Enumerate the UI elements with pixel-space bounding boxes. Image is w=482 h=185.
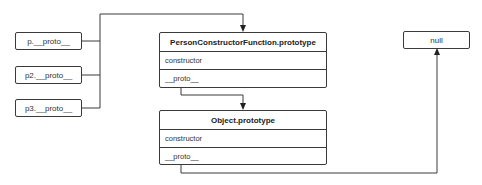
arrowhead-icon [434,48,440,55]
instance-node-p[interactable]: p.__proto__ [15,32,82,50]
node-label: null [430,36,442,45]
node-label: p2.__proto__ [25,71,72,80]
field-constructor: constructor [160,129,326,147]
person-prototype-node[interactable]: PersonConstructorFunction.prototype cons… [159,32,327,88]
field-proto: __proto__ [160,69,326,87]
arrowhead-icon [240,103,246,110]
node-title: PersonConstructorFunction.prototype [160,33,326,51]
null-node[interactable]: null [403,31,470,49]
arrowhead-icon [240,25,246,32]
node-label: p3.__proto__ [25,104,72,113]
node-title: Object.prototype [160,111,326,129]
field-proto: __proto__ [160,147,326,165]
node-label: p.__proto__ [27,37,70,46]
instance-node-p3[interactable]: p3.__proto__ [15,99,82,117]
object-prototype-node[interactable]: Object.prototype constructor __proto__ [159,110,327,165]
instance-node-p2[interactable]: p2.__proto__ [15,66,82,84]
field-constructor: constructor [160,51,326,69]
